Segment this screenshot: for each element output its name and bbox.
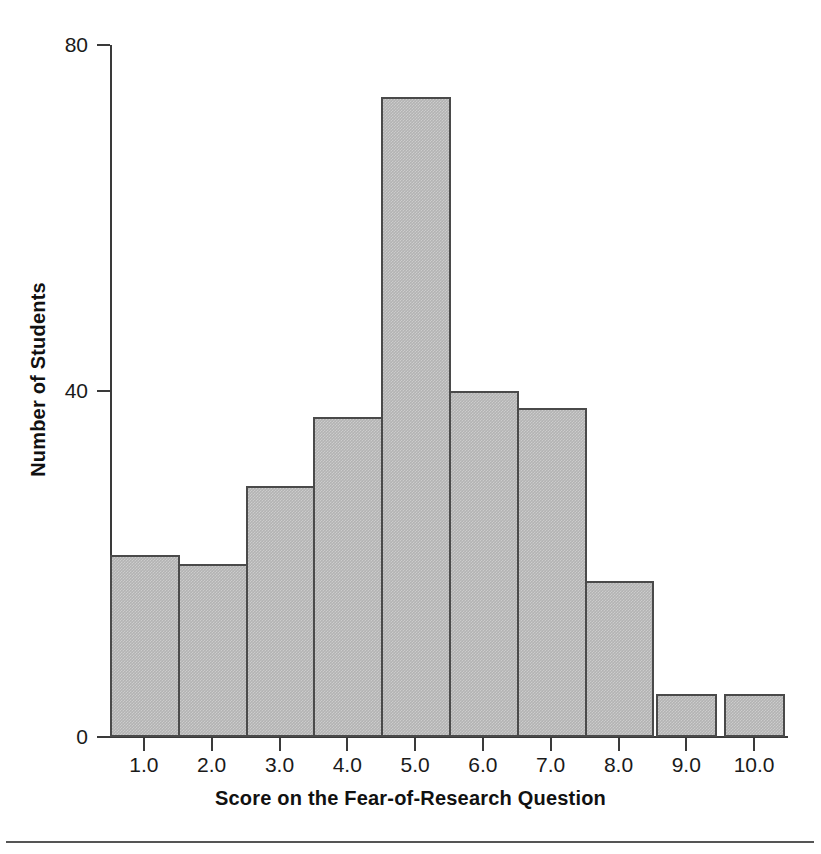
bar-1.0 <box>110 555 180 737</box>
x-tick-mark <box>618 738 620 751</box>
bar-8.0 <box>585 581 655 737</box>
bar-10.0 <box>724 694 785 737</box>
bar-2.0 <box>178 564 248 737</box>
x-tick-mark <box>482 738 484 751</box>
y-tick-label: 0 <box>28 726 88 747</box>
bar-5.0 <box>381 97 451 737</box>
bottom-divider-rule <box>6 841 814 843</box>
x-tick-mark <box>753 738 755 751</box>
x-axis-title: Score on the Fear-of-Research Question <box>0 787 821 810</box>
x-tick-mark <box>550 738 552 751</box>
bar-6.0 <box>449 391 519 737</box>
x-tick-mark <box>279 738 281 751</box>
y-tick-label: 80 <box>28 34 88 55</box>
bar-7.0 <box>517 408 587 737</box>
bar-3.0 <box>246 486 316 737</box>
x-tick-mark <box>143 738 145 751</box>
y-tick-mark <box>97 736 110 738</box>
bar-4.0 <box>313 417 383 737</box>
x-tick-mark <box>346 738 348 751</box>
x-tick-mark <box>211 738 213 751</box>
histogram-figure: Number of Students 04080 1.02.03.04.05.0… <box>0 0 821 854</box>
y-tick-label: 40 <box>28 380 88 401</box>
plot-area <box>110 45 788 737</box>
bar-9.0 <box>656 694 717 737</box>
y-tick-mark <box>97 390 110 392</box>
x-tick-mark <box>414 738 416 751</box>
x-tick-mark <box>685 738 687 751</box>
x-tick-label-10.0: 10.0 <box>714 753 794 777</box>
y-tick-mark <box>97 44 110 46</box>
